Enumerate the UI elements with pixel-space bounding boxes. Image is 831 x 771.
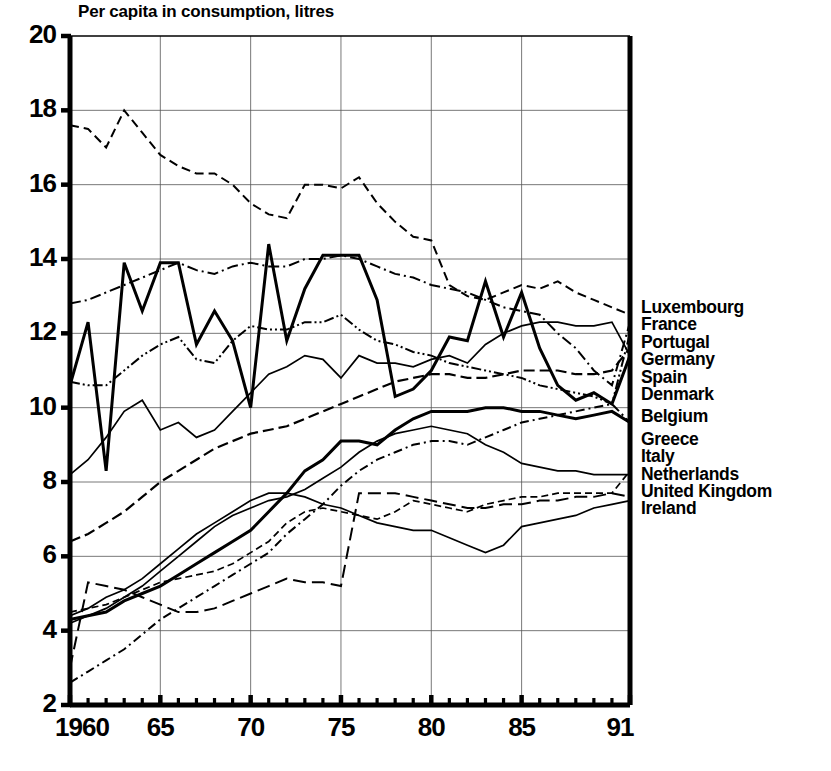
- x-tick-label: 85: [472, 712, 572, 743]
- y-tick-label: 12: [0, 316, 56, 347]
- x-tick-label: 91: [570, 712, 670, 743]
- y-tick-label: 16: [0, 168, 56, 199]
- y-tick-label: 6: [0, 539, 56, 570]
- y-tick-label: 20: [0, 19, 56, 50]
- series-line-italy: [70, 493, 630, 668]
- y-tick-label: 18: [0, 93, 56, 124]
- series-line-belgium: [70, 408, 630, 620]
- legend-item-germany: Germany: [641, 351, 831, 368]
- y-tick-label: 14: [0, 242, 56, 273]
- series-line-denmark: [70, 322, 630, 474]
- x-tick-label: 65: [110, 712, 210, 743]
- legend-item-belgium: Belgium: [641, 408, 831, 425]
- y-tick-label: 8: [0, 465, 56, 496]
- data-series-layer: [70, 110, 630, 682]
- legend-item-ireland: Ireland: [641, 500, 831, 517]
- chart-legend: LuxembourgFrancePortugalGermanySpainDenm…: [641, 299, 831, 518]
- series-line-greece: [70, 426, 630, 623]
- legend-item-denmark: Denmark: [641, 386, 831, 403]
- series-line-france: [70, 110, 630, 314]
- x-tick-label: 70: [201, 712, 301, 743]
- series-line-ireland: [70, 493, 630, 616]
- series-line-luxembourg: [70, 244, 630, 471]
- series-line-united-kingdom: [70, 471, 630, 612]
- series-line-netherlands: [70, 404, 630, 683]
- y-tick-label: 4: [0, 614, 56, 645]
- x-tick-label: 80: [381, 712, 481, 743]
- y-tick-label: 10: [0, 391, 56, 422]
- x-tick-label: 75: [291, 712, 391, 743]
- chart-figure: Per capita in consumption, litres 246810…: [0, 0, 831, 771]
